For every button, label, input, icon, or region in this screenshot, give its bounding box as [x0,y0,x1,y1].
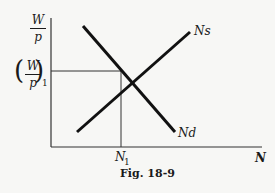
labor-supply-curve [77,32,190,132]
figure-caption: Fig. 18-9 [120,167,175,180]
demand-curve-label: Nd [178,127,196,139]
y-axis-label: W p [30,14,46,43]
fraction-bar [30,28,46,29]
open-paren: ( [14,57,24,83]
x-axis-label: N [255,152,266,164]
supply-curve-label: Ns [194,25,211,37]
